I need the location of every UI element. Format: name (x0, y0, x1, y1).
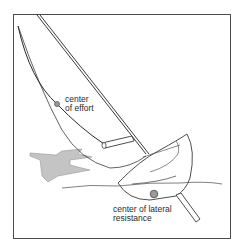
center-of-effort-marker (55, 102, 60, 107)
boom (102, 136, 134, 149)
keel (176, 193, 200, 222)
label-center-of-effort-line2: of effort (65, 104, 94, 113)
sail-luff (18, 26, 104, 144)
label-clr-line2: resistance (113, 214, 172, 223)
label-center-of-effort: center of effort (65, 95, 94, 113)
mast (37, 15, 149, 154)
label-center-of-lateral-resistance: center of lateral resistance (113, 205, 172, 223)
center-of-lateral-resistance-marker (150, 190, 158, 198)
